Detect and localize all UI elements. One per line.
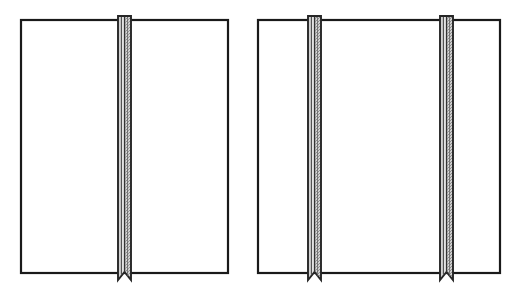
technical-drawing-svg bbox=[0, 0, 520, 293]
panel-right bbox=[258, 16, 500, 280]
band-right-2 bbox=[440, 16, 453, 280]
panel-right-outline bbox=[258, 20, 500, 273]
figure-root bbox=[0, 0, 520, 293]
panel-left bbox=[21, 16, 228, 280]
band-left-1 bbox=[118, 16, 131, 280]
band-right-1 bbox=[308, 16, 321, 280]
